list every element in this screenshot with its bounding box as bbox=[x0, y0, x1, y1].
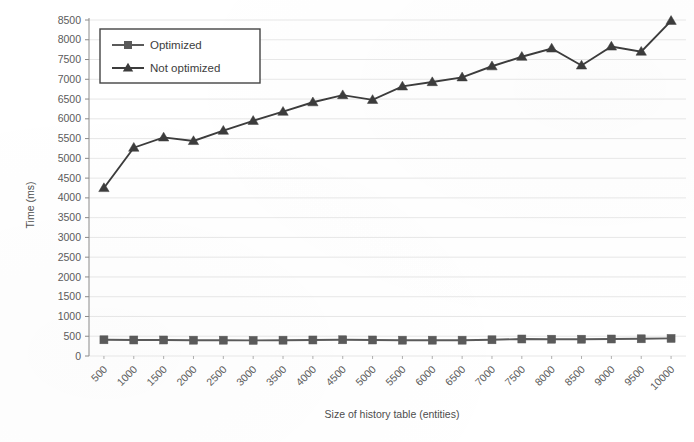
x-axis-tick-label: 7500 bbox=[502, 363, 527, 388]
data-point-marker bbox=[189, 336, 197, 344]
data-point-marker bbox=[607, 335, 615, 343]
legend-label: Optimized bbox=[150, 39, 202, 51]
data-point-marker bbox=[458, 336, 466, 344]
y-axis-tick-label: 7000 bbox=[58, 73, 82, 85]
x-axis-title: Size of history table (entities) bbox=[325, 408, 460, 420]
data-point-marker bbox=[339, 336, 347, 344]
y-axis-tick-label: 2000 bbox=[58, 271, 82, 283]
data-point-marker bbox=[428, 336, 436, 344]
chart-legend: OptimizedNot optimized bbox=[100, 29, 260, 83]
data-point-marker bbox=[518, 335, 526, 343]
data-point-marker bbox=[398, 336, 406, 344]
data-point-marker bbox=[279, 336, 287, 344]
y-axis-tick-label: 3500 bbox=[58, 211, 82, 223]
x-axis-tick-label: 7000 bbox=[472, 363, 497, 388]
y-axis-tick-label: 6500 bbox=[58, 93, 82, 105]
y-axis-tick-label: 7500 bbox=[58, 53, 82, 65]
x-axis-tick-label: 8000 bbox=[532, 363, 557, 388]
data-point-marker bbox=[160, 336, 168, 344]
y-axis-tick-label: 1500 bbox=[58, 290, 82, 302]
x-axis-tick-label: 500 bbox=[88, 363, 109, 384]
data-point-marker bbox=[546, 43, 556, 52]
y-axis-tick-label: 0 bbox=[75, 350, 81, 362]
x-axis-tick-label: 6500 bbox=[443, 363, 468, 388]
x-axis-tick-label: 9000 bbox=[592, 363, 617, 388]
data-point-marker bbox=[219, 336, 227, 344]
y-axis-tick-label: 3000 bbox=[58, 231, 82, 243]
data-point-marker bbox=[369, 336, 377, 344]
series-line bbox=[104, 338, 671, 340]
line-chart: 0500100015002000250030003500400045005000… bbox=[0, 0, 694, 442]
x-axis-tick-label: 1500 bbox=[144, 363, 169, 388]
y-axis-tick-label: 2500 bbox=[58, 251, 82, 263]
x-axis-tick-label: 3500 bbox=[263, 363, 288, 388]
data-point-marker bbox=[488, 336, 496, 344]
x-axis-tick-label: 3000 bbox=[234, 363, 259, 388]
data-point-marker bbox=[130, 336, 138, 344]
x-axis-tick-label: 2000 bbox=[174, 363, 199, 388]
data-point-marker bbox=[249, 336, 257, 344]
y-axis-tick-label: 4500 bbox=[58, 172, 82, 184]
x-axis-tick-label: 6000 bbox=[413, 363, 438, 388]
data-point-marker bbox=[338, 90, 348, 99]
x-axis-tick-label: 4500 bbox=[323, 363, 348, 388]
y-axis-tick-label: 5000 bbox=[58, 152, 82, 164]
x-axis-tick-label: 5500 bbox=[383, 363, 408, 388]
y-axis-tick-label: 1000 bbox=[58, 310, 82, 322]
data-point-marker bbox=[576, 60, 586, 69]
x-axis-tick-label: 8500 bbox=[562, 363, 587, 388]
y-axis-tick-label: 8500 bbox=[58, 14, 82, 26]
y-axis-tick-label: 6000 bbox=[58, 112, 82, 124]
y-axis-tick-label: 8000 bbox=[58, 33, 82, 45]
legend-box bbox=[100, 29, 260, 83]
data-point-marker bbox=[548, 335, 556, 343]
data-point-marker bbox=[100, 336, 108, 344]
data-point-marker bbox=[158, 132, 168, 141]
data-point-marker bbox=[667, 334, 675, 342]
x-axis-tick-label: 9500 bbox=[622, 363, 647, 388]
data-point-marker bbox=[578, 335, 586, 343]
x-axis-tick-label: 2500 bbox=[204, 363, 229, 388]
chart-canvas: 0500100015002000250030003500400045005000… bbox=[0, 0, 694, 442]
data-point-marker bbox=[309, 336, 317, 344]
data-point-marker bbox=[637, 335, 645, 343]
legend-label: Not optimized bbox=[150, 62, 220, 74]
x-axis-tick-label: 1000 bbox=[114, 363, 139, 388]
y-axis-tick-label: 5500 bbox=[58, 132, 82, 144]
legend-marker-icon bbox=[124, 41, 132, 49]
data-point-marker bbox=[606, 41, 616, 50]
x-axis-ticks-group: 5001000150020002500300035004000450050005… bbox=[88, 356, 676, 392]
y-axis-tick-label: 4000 bbox=[58, 191, 82, 203]
x-axis-tick-label: 5000 bbox=[353, 363, 378, 388]
y-axis-title: Time (ms) bbox=[24, 182, 36, 229]
y-axis-tick-label: 500 bbox=[63, 330, 81, 342]
x-axis-tick-label: 10000 bbox=[647, 363, 676, 392]
x-axis-tick-label: 4000 bbox=[293, 363, 318, 388]
y-axis-ticks-group: 0500100015002000250030003500400045005000… bbox=[58, 14, 89, 362]
